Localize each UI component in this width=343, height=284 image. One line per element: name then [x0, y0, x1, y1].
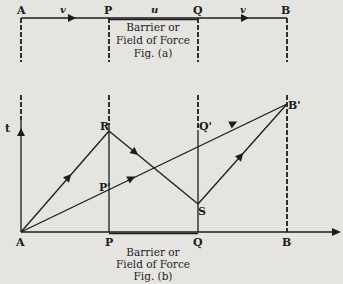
arrow-up-icon	[17, 128, 25, 136]
worldline-R-S	[109, 131, 198, 204]
label-A-b: A	[15, 236, 25, 249]
label-P-a: P	[104, 4, 112, 17]
label-Q-prime: Q'	[199, 120, 212, 133]
barrier-label-a-line1: Barrier or	[126, 21, 180, 33]
label-P-b: P	[105, 236, 113, 249]
label-Q-b: Q	[193, 236, 203, 249]
arrow-icon	[126, 173, 137, 184]
barrier-label-b-line1: Barrier or	[126, 246, 180, 258]
arrow-right-icon	[241, 14, 249, 22]
label-R: R	[100, 120, 110, 133]
label-B-b: B	[282, 236, 291, 249]
velocity-label-v1: v	[60, 4, 66, 15]
figure-a: A P Q B v u v Barrier or Field of Force …	[16, 4, 290, 62]
arrow-icon	[228, 118, 239, 129]
worldline-A-Bprime	[21, 104, 287, 232]
label-P-prime: P'	[99, 181, 111, 194]
caption-fig-b: Fig. (b)	[134, 270, 173, 282]
worldline-A-R	[21, 131, 109, 232]
label-A-a: A	[16, 4, 26, 17]
arrow-right-icon	[332, 228, 341, 236]
velocity-label-u: u	[151, 4, 158, 15]
diagram-canvas: A P Q B v u v Barrier or Field of Force …	[0, 0, 343, 284]
velocity-label-v2: v	[240, 4, 246, 15]
barrier-label-b-line2: Field of Force	[116, 258, 190, 270]
t-axis-label: t	[5, 122, 11, 135]
label-B-a: B	[281, 4, 290, 17]
arrow-right-icon	[68, 14, 76, 22]
figure-b: t R S P' Q' B' A P Q B Barrier or Field	[5, 95, 341, 282]
caption-fig-a: Fig. (a)	[134, 47, 173, 59]
label-B-prime: B'	[288, 99, 301, 112]
label-S: S	[198, 205, 206, 218]
barrier-label-a-line2: Field of Force	[116, 34, 190, 46]
label-Q-a: Q	[193, 4, 203, 17]
